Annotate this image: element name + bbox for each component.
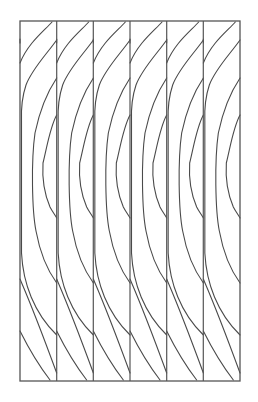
strip-2: [57, 22, 94, 380]
grain-arc: [203, 331, 233, 380]
grain-arc: [167, 279, 204, 373]
grain-arc: [130, 279, 167, 373]
grain-arc: [32, 78, 56, 283]
strip-dividers-group: [57, 21, 204, 381]
grain-arc: [57, 279, 94, 373]
grain-arc: [20, 279, 57, 373]
grain-arc: [130, 331, 160, 380]
grain-arc: [205, 40, 240, 335]
grain-arc: [57, 22, 89, 63]
grain-arc: [216, 78, 240, 283]
grain-arc: [43, 115, 57, 218]
grain-arc: [203, 279, 240, 373]
grain-arc: [93, 279, 130, 373]
grain-arc: [142, 78, 166, 283]
grain-arc: [20, 331, 50, 380]
wood-grain-strips-drawing: [0, 0, 258, 402]
grain-arc: [226, 115, 240, 218]
grain-arc: [116, 115, 130, 218]
grain-arc: [130, 22, 162, 63]
strip-5: [167, 22, 204, 380]
grain-arc: [57, 331, 87, 380]
strip-6: [203, 22, 240, 380]
grain-arc: [179, 78, 203, 283]
grain-arc: [131, 40, 166, 335]
figure-canvas: [0, 0, 258, 402]
grain-arc: [167, 22, 199, 63]
grain-arc: [203, 22, 235, 63]
grain-arc: [153, 115, 167, 218]
grain-arc: [93, 331, 123, 380]
strip-4: [130, 22, 167, 380]
grain-arc: [93, 22, 125, 63]
grain-arc: [21, 40, 56, 335]
grain-arc: [95, 40, 130, 335]
grain-arc: [168, 40, 203, 335]
grain-arc: [106, 78, 130, 283]
grain-arc: [79, 115, 93, 218]
grain-arc: [58, 40, 93, 335]
grain-arc: [189, 115, 203, 218]
strip-1: [20, 22, 57, 380]
grain-arc: [167, 331, 197, 380]
strip-3: [93, 22, 130, 380]
grain-arc: [69, 78, 93, 283]
grain-arc: [20, 22, 52, 63]
